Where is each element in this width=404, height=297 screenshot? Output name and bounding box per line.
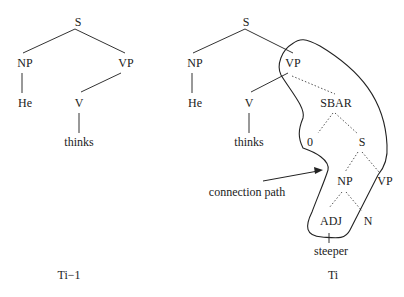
node-adj: ADJ (320, 214, 342, 228)
node-steeper: steeper (314, 244, 348, 258)
node-v: V (75, 96, 84, 110)
node-sbar: SBAR (320, 96, 351, 110)
node-zero: 0 (307, 135, 313, 149)
node-vp: VP (285, 56, 300, 70)
node-np: NP (187, 56, 202, 70)
caption-ti-1: Ti−1 (57, 268, 80, 282)
node-he: He (188, 96, 202, 110)
node-thinks: thinks (64, 135, 93, 149)
node-vp: VP (118, 56, 133, 70)
node-s: S (243, 15, 250, 29)
connection-path-label: connection path (209, 185, 285, 199)
node-v: V (245, 96, 254, 110)
node-thinks: thinks (234, 135, 263, 149)
node-np: NP (17, 56, 32, 70)
node-vp2: VP (377, 174, 392, 188)
node-n: N (364, 214, 373, 228)
node-s: S (75, 15, 82, 29)
node-np2: NP (337, 174, 352, 188)
diagram-canvas: S NP VP He V thinks Ti−1 S NP VP He V th… (0, 0, 404, 297)
node-s2: S (359, 135, 366, 149)
caption-ti: Ti (328, 268, 338, 282)
node-he: He (18, 96, 32, 110)
